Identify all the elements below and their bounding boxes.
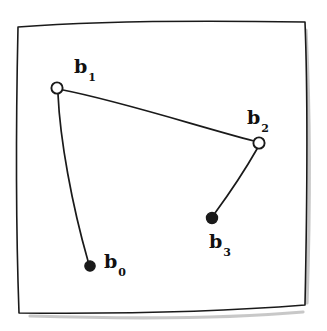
label-b2-subscript: 2 [261,122,269,135]
control-point-b1-label: b1 [74,57,95,80]
label-b3-subscript: 3 [223,246,231,259]
control-point-b2-label: b2 [247,108,268,131]
control-point-b0-marker[interactable] [85,261,95,271]
label-b0-subscript: 0 [118,266,126,279]
label-b3-base: b [209,230,222,252]
control-point-b3-marker[interactable] [206,212,217,223]
control-point-b3-label: b3 [209,232,230,255]
diagram-svg [0,0,327,331]
label-b2-base: b [247,106,260,128]
control-point-b0-label: b0 [104,252,125,275]
label-b1-base: b [74,55,87,77]
hand-drawn-border [17,21,307,313]
figure-canvas: b0 b1 b2 b3 [0,0,327,331]
control-point-b2-marker[interactable] [253,137,264,148]
label-b0-base: b [104,250,117,272]
label-b1-subscript: 1 [88,71,96,84]
control-point-b1-marker[interactable] [51,82,62,93]
